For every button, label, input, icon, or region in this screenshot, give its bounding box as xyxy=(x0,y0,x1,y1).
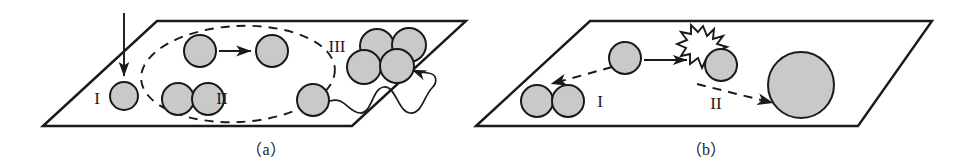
sphere-incoming xyxy=(609,42,641,74)
sphere-pair-right xyxy=(552,85,584,117)
fragmentation-dashed-arrow-icon xyxy=(551,67,612,84)
growth-dashed-arrow-icon xyxy=(697,84,773,103)
sphere-nucleus xyxy=(110,82,138,110)
sphere-merged-left xyxy=(162,83,194,115)
sphere-diffusing xyxy=(297,84,329,116)
sphere-coalescing-left xyxy=(184,35,216,67)
sphere-cluster-bottom-right xyxy=(380,49,414,83)
sphere-large-grown xyxy=(768,52,834,118)
diagram-canvas: I II III （a） I II （b） xyxy=(0,0,962,166)
sphere-cluster-bottom-left xyxy=(347,50,381,84)
stage-label-a-3: III xyxy=(329,37,346,56)
stage-label-a-2: II xyxy=(216,89,228,108)
sphere-pair-left xyxy=(521,85,553,117)
stage-label-b-2: II xyxy=(710,94,722,113)
sphere-coalescing-right xyxy=(256,35,288,67)
sphere-impacted xyxy=(705,49,737,81)
panel-caption-a: （a） xyxy=(246,141,285,158)
panel-caption-b: （b） xyxy=(686,141,726,158)
panel-b: I II （b） xyxy=(476,21,932,158)
stage-label-b-1: I xyxy=(597,92,603,111)
panel-a: I II III （a） xyxy=(43,13,466,158)
particle-growth-mechanism-diagram: I II III （a） I II （b） xyxy=(0,0,962,166)
stage-label-a-1: I xyxy=(94,89,100,108)
